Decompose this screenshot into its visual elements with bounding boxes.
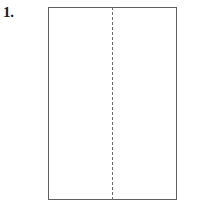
instruction-figure-canvas: 1. Fold paper in half lengthwise [0,0,198,214]
paper-diagram [48,7,177,200]
fold-dashed-line [112,7,113,200]
step-number-label: 1. [3,3,14,21]
